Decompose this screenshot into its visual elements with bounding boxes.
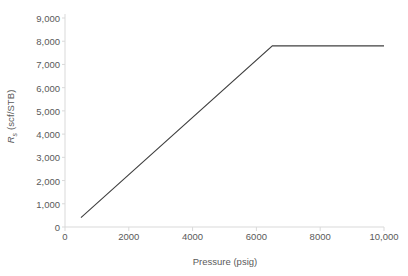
plot-area	[0, 0, 408, 276]
x-tick-label: 2000	[118, 231, 139, 242]
data-series-line	[81, 46, 384, 218]
x-tick-label: 6000	[246, 231, 267, 242]
x-tick-label: 4000	[182, 231, 203, 242]
x-tick-label: 10,000	[369, 231, 398, 242]
x-axis-tick-marks	[65, 227, 384, 231]
x-tick-label: 0	[62, 231, 67, 242]
chart-container: Rs (scf/STB) 01,0002,0003,0004,0005,0006…	[0, 0, 408, 276]
x-tick-label: 8000	[310, 231, 331, 242]
